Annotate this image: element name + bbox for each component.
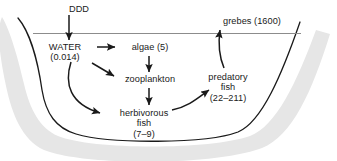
label-water-line-1: WATER	[36, 42, 94, 52]
label-predatory-fish-line-1: predatory	[195, 72, 261, 82]
label-grebes-line-1: grebes (1600)	[207, 16, 297, 26]
label-herbivorous-fish: herbivorous fish (7–9)	[104, 108, 184, 139]
label-algae-line-1: algae (5)	[119, 42, 181, 52]
label-water: WATER (0.014)	[36, 42, 94, 63]
label-herbivorous-fish-line-1: herbivorous	[104, 108, 184, 118]
label-water-line-2: (0.014)	[36, 52, 94, 62]
label-herbivorous-fish-line-3: (7–9)	[104, 129, 184, 139]
label-predatory-fish: predatory fish (22–211)	[195, 72, 261, 103]
arrow-predatory-fish-to-grebes	[219, 30, 224, 68]
label-predatory-fish-line-2: fish	[195, 82, 261, 92]
label-zooplankton-line-1: zooplankton	[108, 74, 192, 84]
label-herbivorous-fish-line-2: fish	[104, 118, 184, 128]
label-ddd: DDD	[58, 4, 100, 14]
arrow-water-to-herbivorous-fish	[68, 62, 100, 113]
label-ddd-line-1: DDD	[58, 4, 100, 14]
label-zooplankton: zooplankton	[108, 74, 192, 84]
ddd-food-chain-figure: DDD WATER (0.014) algae (5) zooplankton …	[0, 0, 337, 161]
label-predatory-fish-line-3: (22–211)	[195, 93, 261, 103]
label-grebes: grebes (1600)	[207, 16, 297, 26]
label-algae: algae (5)	[119, 42, 181, 52]
